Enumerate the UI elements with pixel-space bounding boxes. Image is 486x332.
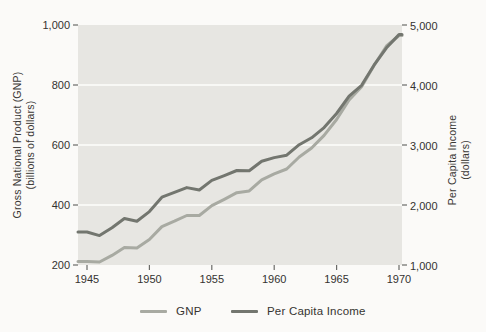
legend-label-per-capita-income: Per Capita Income	[267, 305, 366, 317]
left-axis-title-line1: Gross National Product (GNP)	[11, 72, 24, 219]
right-axis-title: Per Capita Income (dollars)	[446, 115, 472, 205]
x-axis-tick-label: 1965	[324, 273, 348, 285]
left-axis-tick-label: 200	[52, 259, 70, 271]
right-axis-title-line1: Per Capita Income	[446, 115, 459, 205]
legend-label-gnp: GNP	[176, 305, 202, 317]
right-axis-tick-label: 3,000	[410, 140, 438, 152]
right-axis-tick-label: 2,000	[410, 200, 438, 212]
x-axis-tick-label: 1970	[387, 273, 411, 285]
per-capita-income-line-swatch	[231, 310, 258, 313]
gnp-per-capita-income-chart: 2004006008001,0001,0002,0003,0004,0005,0…	[0, 0, 486, 332]
x-axis-tick-label: 1955	[200, 273, 224, 285]
x-axis-tick-label: 1945	[75, 273, 99, 285]
left-axis-title-line2: (billions of dollars)	[24, 72, 37, 219]
left-axis-tick-label: 600	[52, 139, 70, 151]
legend-item-gnp: GNP	[140, 304, 202, 318]
legend-item-per-capita-income: Per Capita Income	[231, 304, 366, 318]
left-axis-tick-label: 800	[52, 79, 70, 91]
gnp-line-swatch	[140, 310, 167, 313]
x-axis-tick-label: 1950	[137, 273, 161, 285]
x-axis-tick-label: 1960	[262, 273, 286, 285]
left-axis-tick-label: 1,000	[42, 19, 70, 31]
right-axis-tick-label: 4,000	[410, 80, 438, 92]
left-axis-title: Gross National Product (GNP) (billions o…	[11, 72, 37, 219]
right-axis-tick-label: 1,000	[410, 260, 438, 272]
left-axis-tick-label: 400	[52, 199, 70, 211]
right-axis-tick-label: 5,000	[410, 20, 438, 32]
plot-area: 2004006008001,0001,0002,0003,0004,0005,0…	[0, 0, 486, 332]
right-axis-title-line2: (dollars)	[459, 115, 472, 205]
